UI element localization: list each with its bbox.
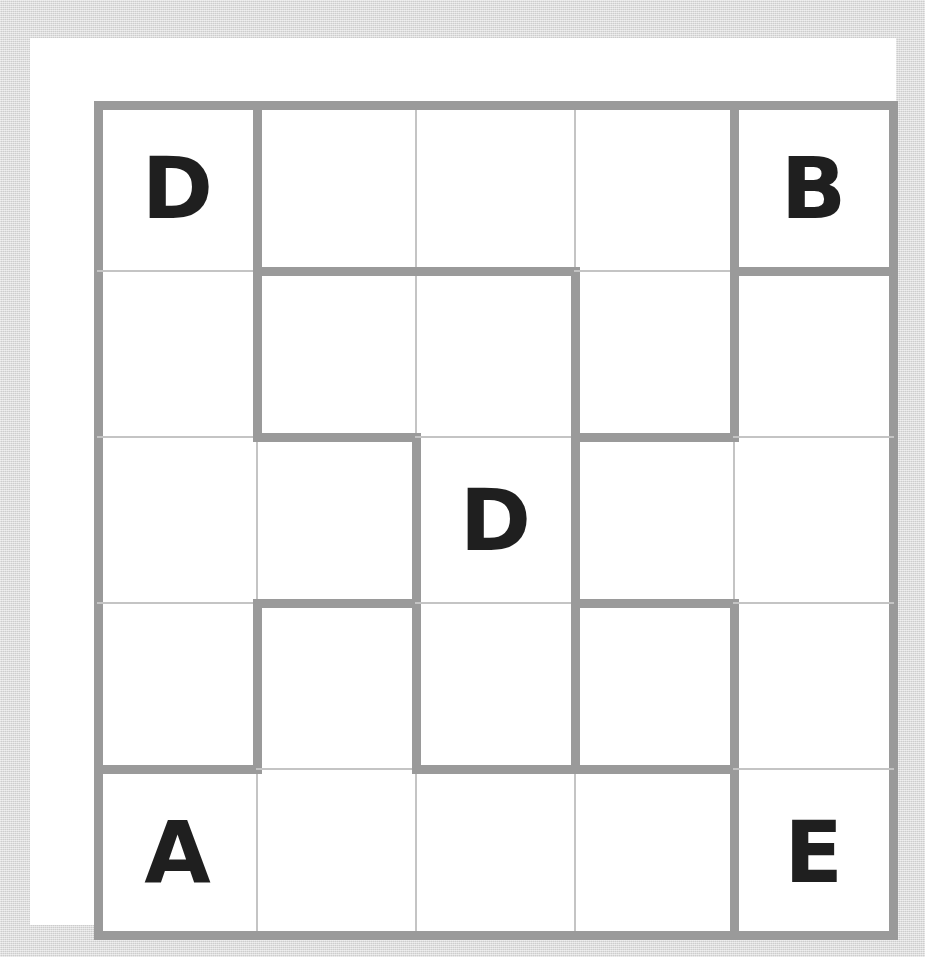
grid-cell-r0-c2[interactable] xyxy=(416,105,575,271)
wall-vertical-r1-c3-thick xyxy=(571,267,580,442)
grid-cell-r4-c4[interactable]: E xyxy=(734,769,893,935)
grid-cell-r2-c3[interactable] xyxy=(575,437,734,603)
wall-horizontal-r2-c0-thin xyxy=(97,436,258,438)
wall-horizontal-r3-c0-thin xyxy=(97,602,258,604)
wall-horizontal-r0-c4-thick xyxy=(730,101,898,110)
paper-card: DBDAE xyxy=(30,38,896,925)
wall-horizontal-r0-c1-thick xyxy=(253,101,421,110)
wall-horizontal-r4-c0-thick xyxy=(94,765,262,774)
wall-horizontal-r1-c1-thick xyxy=(253,267,421,276)
wall-horizontal-r3-c4-thin xyxy=(733,602,894,604)
grid-cell-r2-c2[interactable]: D xyxy=(416,437,575,603)
wall-vertical-r0-c3-thin xyxy=(574,104,576,272)
wall-vertical-r3-c1-thick xyxy=(253,599,262,774)
wall-vertical-r3-c2-thick xyxy=(412,599,421,774)
wall-horizontal-r0-c0-thick xyxy=(94,101,262,110)
cell-letter-d-r2-c2: D xyxy=(460,477,531,563)
grid-cell-r4-c3[interactable] xyxy=(575,769,734,935)
wall-vertical-r2-c5-thick xyxy=(889,433,898,608)
wall-horizontal-r2-c1-thick xyxy=(253,433,421,442)
grid-cell-r3-c0[interactable] xyxy=(98,603,257,769)
grid-cell-r1-c4[interactable] xyxy=(734,271,893,437)
wall-vertical-r1-c0-thick xyxy=(94,267,103,442)
wall-vertical-r0-c0-thick xyxy=(94,101,103,276)
grid-cell-r0-c0[interactable]: D xyxy=(98,105,257,271)
wall-horizontal-r5-c2-thick xyxy=(412,931,580,940)
wall-horizontal-r4-c1-thin xyxy=(256,768,417,770)
wall-horizontal-r4-c4-thin xyxy=(733,768,894,770)
wall-horizontal-r1-c0-thin xyxy=(97,270,258,272)
grid-cell-r1-c3[interactable] xyxy=(575,271,734,437)
grid-cell-r0-c3[interactable] xyxy=(575,105,734,271)
wall-vertical-r3-c0-thick xyxy=(94,599,103,774)
wall-horizontal-r5-c4-thick xyxy=(730,931,898,940)
wall-horizontal-r3-c1-thick xyxy=(253,599,421,608)
wall-vertical-r4-c5-thick xyxy=(889,765,898,940)
wall-vertical-r0-c5-thick xyxy=(889,101,898,276)
wall-vertical-r1-c1-thick xyxy=(253,267,262,442)
grid-cell-r3-c1[interactable] xyxy=(257,603,416,769)
cell-letter-a-r4-c0: A xyxy=(144,809,211,895)
grid-cell-r1-c0[interactable] xyxy=(98,271,257,437)
grid-cell-r0-c4[interactable]: B xyxy=(734,105,893,271)
wall-horizontal-r3-c2-thin xyxy=(415,602,576,604)
wall-vertical-r0-c4-thick xyxy=(730,101,739,276)
wall-vertical-r2-c0-thick xyxy=(94,433,103,608)
wall-vertical-r3-c5-thick xyxy=(889,599,898,774)
wall-horizontal-r0-c3-thick xyxy=(571,101,739,110)
cell-letter-b-r0-c4: B xyxy=(781,145,847,231)
grid-cell-r3-c4[interactable] xyxy=(734,603,893,769)
wall-horizontal-r1-c2-thick xyxy=(412,267,580,276)
grid-cell-r1-c2[interactable] xyxy=(416,271,575,437)
grid-cell-r2-c4[interactable] xyxy=(734,437,893,603)
puzzle-grid[interactable]: DBDAE xyxy=(98,105,892,935)
grid-cell-r3-c2[interactable] xyxy=(416,603,575,769)
wall-vertical-r1-c4-thick xyxy=(730,267,739,442)
wall-horizontal-r2-c3-thick xyxy=(571,433,739,442)
wall-vertical-r0-c1-thick xyxy=(253,101,262,276)
wall-horizontal-r4-c3-thick xyxy=(571,765,739,774)
wall-vertical-r2-c1-thin xyxy=(256,436,258,604)
wall-vertical-r3-c3-thick xyxy=(571,599,580,774)
wall-horizontal-r1-c4-thick xyxy=(730,267,898,276)
wall-vertical-r1-c5-thick xyxy=(889,267,898,442)
wall-vertical-r2-c3-thick xyxy=(571,433,580,608)
wall-horizontal-r2-c4-thin xyxy=(733,436,894,438)
grid-cell-r4-c2[interactable] xyxy=(416,769,575,935)
grid-cell-r2-c0[interactable] xyxy=(98,437,257,603)
wall-vertical-r1-c2-thin xyxy=(415,270,417,438)
wall-horizontal-r5-c0-thick xyxy=(94,931,262,940)
grid-cell-r4-c0[interactable]: A xyxy=(98,769,257,935)
wall-vertical-r4-c2-thin xyxy=(415,768,417,936)
wall-horizontal-r5-c3-thick xyxy=(571,931,739,940)
grid-cell-r4-c1[interactable] xyxy=(257,769,416,935)
grid-cell-r1-c1[interactable] xyxy=(257,271,416,437)
cell-letter-e-r4-c4: E xyxy=(784,809,843,895)
wall-vertical-r4-c1-thin xyxy=(256,768,258,936)
wall-vertical-r3-c4-thick xyxy=(730,599,739,774)
wall-horizontal-r1-c3-thin xyxy=(574,270,735,272)
cell-letter-d-r0-c0: D xyxy=(142,145,213,231)
wall-vertical-r2-c4-thin xyxy=(733,436,735,604)
grid-cell-r3-c3[interactable] xyxy=(575,603,734,769)
wall-horizontal-r4-c2-thick xyxy=(412,765,580,774)
wall-horizontal-r3-c3-thick xyxy=(571,599,739,608)
wall-vertical-r2-c2-thick xyxy=(412,433,421,608)
wall-vertical-r0-c2-thin xyxy=(415,104,417,272)
grid-cell-r0-c1[interactable] xyxy=(257,105,416,271)
wall-vertical-r4-c3-thin xyxy=(574,768,576,936)
wall-horizontal-r2-c2-thin xyxy=(415,436,576,438)
grid-cell-r2-c1[interactable] xyxy=(257,437,416,603)
wall-vertical-r4-c4-thick xyxy=(730,765,739,940)
wall-vertical-r4-c0-thick xyxy=(94,765,103,940)
wall-horizontal-r5-c1-thick xyxy=(253,931,421,940)
wall-horizontal-r0-c2-thick xyxy=(412,101,580,110)
